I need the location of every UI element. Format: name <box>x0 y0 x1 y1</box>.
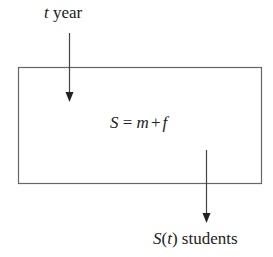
equation-term-m: m <box>137 113 149 132</box>
equation-term-f: f <box>162 113 167 132</box>
input-unit: year <box>53 3 82 22</box>
output-unit: students <box>182 229 238 248</box>
equation-lhs: S <box>110 113 119 132</box>
output-function: S <box>153 229 162 248</box>
equation-plus: + <box>151 113 161 132</box>
input-label: t year <box>44 4 82 21</box>
output-paren-close: ) <box>172 229 178 248</box>
input-variable: t <box>44 3 49 22</box>
output-label: S(t) students <box>153 230 238 247</box>
equation: S = m+f <box>110 114 167 131</box>
equation-equals: = <box>123 113 133 132</box>
output-arrow <box>203 150 211 223</box>
